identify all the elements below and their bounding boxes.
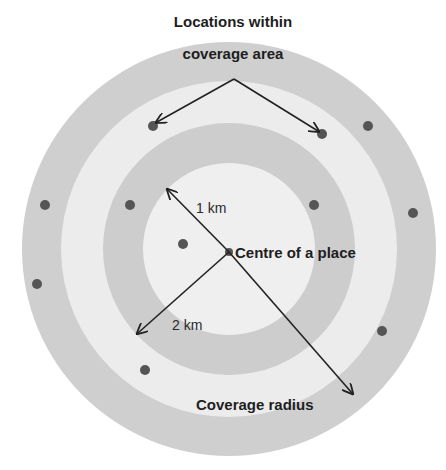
location-dot bbox=[408, 208, 418, 218]
one-km-label: 1 km bbox=[196, 200, 226, 216]
location-dot bbox=[317, 129, 327, 139]
location-dot bbox=[40, 200, 50, 210]
coverage-radius-label: Coverage radius bbox=[196, 396, 314, 413]
title-line-2: coverage area bbox=[183, 45, 285, 62]
location-dot bbox=[140, 365, 150, 375]
location-dot bbox=[32, 279, 42, 289]
location-dot bbox=[309, 200, 319, 210]
coverage-diagram: Locations within coverage area Centre of… bbox=[0, 0, 446, 470]
location-dot bbox=[377, 326, 387, 336]
location-dot bbox=[125, 200, 135, 210]
title-line-1: Locations within bbox=[174, 13, 292, 30]
location-dot bbox=[178, 239, 188, 249]
centre-label: Centre of a place bbox=[235, 244, 356, 261]
location-dot bbox=[148, 121, 158, 131]
two-km-label: 2 km bbox=[172, 317, 202, 333]
location-dot bbox=[363, 121, 373, 131]
